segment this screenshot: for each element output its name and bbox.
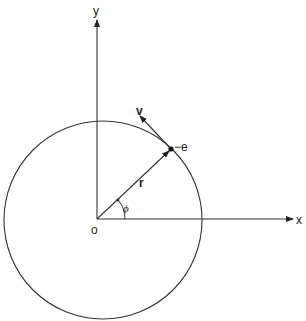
x-axis-label: x: [296, 213, 302, 227]
radius-vector: [97, 151, 169, 219]
electron-label: −e: [174, 140, 188, 154]
velocity-vector: [140, 116, 171, 149]
angle-label: ϕ: [123, 202, 129, 214]
y-axis-label: y: [93, 4, 99, 18]
orbit-diagram: y x o r v −e ϕ: [0, 0, 306, 321]
angle-arc-marker: [117, 199, 120, 202]
origin-label: o: [91, 223, 98, 237]
velocity-label: v: [136, 104, 143, 118]
radius-label: r: [139, 176, 144, 190]
electron-dot: [168, 146, 173, 151]
